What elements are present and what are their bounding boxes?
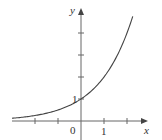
y-axis-arrow-icon	[78, 8, 84, 15]
x-axis-label: x	[143, 124, 149, 136]
y-axis-label: y	[69, 4, 75, 16]
origin-label: 0	[70, 124, 76, 136]
exponential-graph: y x 0 1 1	[0, 0, 162, 140]
y-tick-label-1: 1	[72, 93, 78, 105]
x-tick-label-1: 1	[101, 125, 107, 137]
